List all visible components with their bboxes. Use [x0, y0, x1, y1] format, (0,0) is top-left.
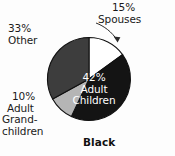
- pie-label-other-name: Other: [8, 35, 37, 47]
- pie-chart-figure: 15% Spouses 33% Other 10% Adult Grand- c…: [0, 0, 175, 156]
- pie-label-adult-grandchildren-line3: children: [2, 126, 43, 138]
- pie-label-spouses-value: 15%: [112, 2, 141, 14]
- pie-label-adult-grandchildren-line2: Grand-: [2, 114, 43, 126]
- pie-label-adult-children: 42% Adult Children: [62, 72, 126, 107]
- leader-line-spouses: [96, 23, 117, 40]
- pie-label-other-value: 33%: [8, 23, 37, 35]
- leader-arrowhead-spouses: [114, 36, 121, 42]
- pie-label-other: 33% Other: [8, 23, 37, 46]
- pie-label-spouses: 15% Spouses: [98, 2, 141, 25]
- pie-label-adult-children-value: 42%: [62, 72, 126, 84]
- pie-label-adult-children-line2: Children: [62, 95, 126, 107]
- pie-label-adult-grandchildren-value: 10%: [12, 91, 43, 103]
- pie-label-adult-grandchildren: 10% Adult Grand- children: [2, 91, 43, 137]
- pie-label-spouses-name: Spouses: [98, 14, 141, 26]
- chart-caption: Black: [83, 136, 115, 148]
